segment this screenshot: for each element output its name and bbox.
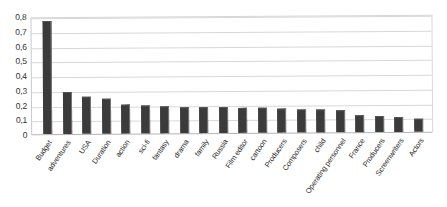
bar [63, 92, 72, 134]
bar-slot [369, 16, 389, 132]
bar-slot [349, 16, 369, 132]
x-axis-tick-label: family [193, 138, 210, 158]
bar [258, 108, 267, 133]
y-axis-tick-label: 0,7 [15, 28, 26, 37]
bar-slot [213, 17, 233, 133]
bar [43, 21, 53, 134]
x-axis: BudgetadventuresUSADurationactionsci-fif… [31, 135, 433, 207]
bar [336, 110, 345, 132]
x-axis-tick-label: action [115, 139, 132, 159]
bar-slot [330, 16, 350, 132]
bar [199, 107, 208, 133]
x-axis-tick: sci-fi [135, 136, 155, 207]
bar [180, 107, 189, 133]
x-axis-tick: Composers [292, 135, 312, 206]
x-axis-tick: family [194, 136, 214, 207]
bar [316, 110, 325, 133]
bar [141, 106, 150, 134]
x-axis-tick: Film editor [233, 136, 253, 207]
bar-slot [76, 18, 96, 134]
x-axis-tick: Actors [409, 135, 429, 206]
bar-slot [408, 16, 428, 132]
bar-slot [291, 16, 311, 132]
bar-slot [115, 18, 135, 134]
bar [121, 105, 130, 134]
x-axis-tick-label: USA [78, 139, 93, 155]
bar [160, 106, 169, 133]
bar-slot [388, 16, 408, 132]
x-axis-tick-label: France [348, 137, 367, 160]
bar [277, 108, 286, 132]
x-axis-tick: Operating personnel [331, 135, 351, 206]
plot-area [30, 15, 433, 135]
bar [414, 119, 423, 132]
y-axis-tick-label: 0 [23, 131, 28, 140]
y-axis-tick-label: 0,2 [16, 101, 27, 110]
x-axis-tick: drama [174, 136, 194, 207]
bar-slot [174, 17, 194, 133]
bar-slot [37, 18, 57, 134]
bar [297, 109, 306, 132]
x-axis-tick: fantasy [155, 136, 175, 207]
bar-slot [193, 17, 213, 133]
bar [219, 107, 228, 133]
bar-slot [154, 17, 174, 133]
x-axis-tick: USA [76, 137, 96, 207]
bar [394, 117, 403, 132]
x-axis-tick-label: sci-fi [137, 138, 151, 154]
y-axis-tick-label: 0,4 [16, 72, 27, 81]
y-axis-tick-label: 0,3 [16, 87, 27, 96]
y-axis-tick-label: 0,8 [15, 13, 26, 22]
x-axis-tick-label: fantasy [151, 138, 170, 161]
bar-slot [57, 18, 77, 134]
bar-slot [135, 17, 155, 133]
x-axis-tick: France [351, 135, 371, 206]
y-axis-tick-label: 0,6 [15, 42, 26, 51]
x-axis-tick: Screenwriters [390, 135, 410, 206]
bar [355, 115, 364, 132]
bar [375, 116, 384, 132]
x-axis-tick: cartoon [253, 136, 273, 207]
y-axis-tick-label: 0,5 [15, 57, 26, 66]
bar-slot [271, 17, 291, 133]
bar-chart: 00,10,20,30,40,50,60,70,8 Budgetadventur… [0, 0, 447, 207]
bar-slot [252, 17, 272, 133]
x-axis-tick-label: drama [173, 138, 191, 159]
bar [102, 99, 111, 134]
bar-slot [232, 17, 252, 133]
x-axis-tick: Producers [272, 136, 292, 207]
x-axis-tick-label: child [313, 137, 327, 153]
bar [238, 108, 247, 133]
x-axis-tick: action [116, 137, 136, 207]
bar-slot [310, 16, 330, 132]
bar [82, 97, 91, 134]
x-axis-tick-label: Russia [211, 138, 230, 160]
bar-slot [96, 18, 116, 134]
x-axis-tick-label: Actors [408, 137, 426, 158]
y-axis-tick-label: 0,1 [16, 116, 27, 125]
x-axis-tick: Budget [37, 137, 57, 207]
x-axis-tick: Russia [214, 136, 234, 207]
bar-series [31, 16, 432, 134]
x-axis-tick: Duration [96, 137, 116, 207]
y-axis: 00,10,20,30,40,50,60,70,8 [0, 1, 31, 207]
x-axis-tick: adventures [57, 137, 77, 207]
